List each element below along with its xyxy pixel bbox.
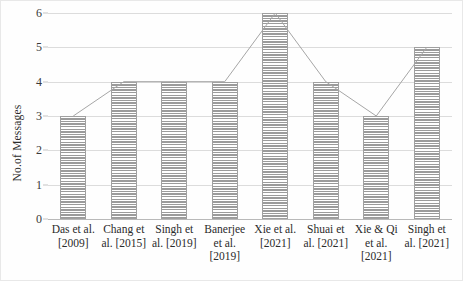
x-axis-tick-label: Xie et al.[2021]	[250, 223, 301, 250]
x-axis-tick-label: Banerjeeet al.[2019]	[200, 223, 251, 264]
y-tickmark-2	[43, 150, 48, 151]
y-tickmark-4	[43, 81, 48, 82]
gridline-4: 4	[48, 82, 452, 83]
x-label-line: et al.	[200, 237, 251, 251]
x-label-line: al. [2021]	[402, 237, 453, 251]
x-label-line: [2021]	[351, 250, 402, 264]
y-tick-label-3: 3	[36, 109, 42, 124]
y-axis-label-text: No.of Messages	[11, 105, 23, 182]
bar	[363, 116, 389, 219]
x-axis-tick-label: Shuai etal. [2021]	[301, 223, 352, 250]
gridline-5: 5	[48, 47, 452, 48]
bar	[60, 116, 86, 219]
x-label-line: [2019]	[200, 250, 251, 264]
x-axis-tick-label: Xie & Qiet al.[2021]	[351, 223, 402, 264]
y-tickmark-6	[43, 13, 48, 14]
y-tickmark-0	[43, 219, 48, 220]
x-label-line: Singh et	[149, 223, 200, 237]
gridline-2: 2	[48, 150, 452, 151]
gridline-0: 0	[48, 219, 452, 220]
x-label-line: Singh et	[402, 223, 453, 237]
y-tick-label-4: 4	[36, 74, 42, 89]
x-axis-tick-label: Das et al.[2009]	[48, 223, 99, 250]
gridline-6: 6	[48, 13, 452, 14]
bar	[414, 47, 440, 219]
y-tickmark-1	[43, 184, 48, 185]
bar	[262, 13, 288, 219]
bar	[212, 82, 238, 219]
y-tick-label-1: 1	[36, 177, 42, 192]
gridline-1: 1	[48, 185, 452, 186]
x-label-line: al. [2015]	[99, 237, 150, 251]
y-tick-label-0: 0	[36, 212, 42, 227]
x-label-line: [2009]	[48, 237, 99, 251]
bar	[313, 82, 339, 219]
y-tickmark-5	[43, 47, 48, 48]
y-tick-label-2: 2	[36, 143, 42, 158]
plot-area: 0123456	[48, 13, 452, 219]
x-axis-tick-label: Singh etal. [2021]	[402, 223, 453, 250]
x-label-line: Shuai et	[301, 223, 352, 237]
x-label-line: Xie & Qi	[351, 223, 402, 237]
x-axis-tick-label: Singh etal. [2019]	[149, 223, 200, 250]
x-axis-labels: Das et al.[2009]Chang etal. [2015]Singh …	[48, 223, 452, 281]
x-axis-tick-label: Chang etal. [2015]	[99, 223, 150, 250]
x-label-line: Banerjee	[200, 223, 251, 237]
x-label-line: al. [2019]	[149, 237, 200, 251]
y-axis-label: No.of Messages	[9, 63, 25, 223]
x-label-line: Chang et	[99, 223, 150, 237]
x-label-line: [2021]	[250, 237, 301, 251]
y-tickmark-3	[43, 116, 48, 117]
y-tick-label-5: 5	[36, 40, 42, 55]
bar	[161, 82, 187, 219]
x-label-line: Das et al.	[48, 223, 99, 237]
gridline-3: 3	[48, 116, 452, 117]
bar	[111, 82, 137, 219]
x-label-line: Xie et al.	[250, 223, 301, 237]
x-label-line: al. [2021]	[301, 237, 352, 251]
y-tick-label-6: 6	[36, 6, 42, 21]
x-label-line: et al.	[351, 237, 402, 251]
chart-container: No.of Messages 0123456 Das et al.[2009]C…	[0, 0, 463, 281]
